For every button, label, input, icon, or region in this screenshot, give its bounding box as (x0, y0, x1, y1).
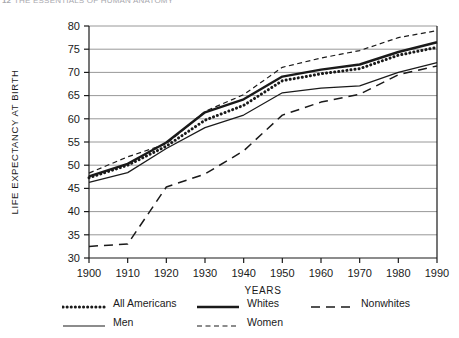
page-running-header: 12 THE ESSENTIALS OF HUMAN ANATOMY (0, 0, 459, 9)
legend-label: Whites (247, 297, 279, 309)
y-tick-label: 50 (68, 159, 80, 171)
y-tick-label: 55 (68, 136, 80, 148)
series-line (89, 42, 437, 176)
legend-item-all-americans[interactable]: All Americans (62, 297, 177, 309)
y-axis-title-group: LIFE EXPECTANCY AT BIRTH (9, 70, 20, 215)
x-tick-label: 1900 (77, 267, 101, 279)
x-tick-label: 1980 (386, 267, 410, 279)
series-line (89, 31, 437, 173)
page-folio: 12 (2, 0, 11, 5)
x-tick-label: 1960 (309, 267, 333, 279)
y-tick-label: 60 (68, 113, 80, 125)
legend-item-nonwhites[interactable]: Nonwhites (310, 297, 410, 309)
series-line (89, 47, 437, 177)
x-tick-label: 1990 (425, 267, 449, 279)
legend-label: Women (247, 316, 283, 328)
legend-label: Men (113, 316, 133, 328)
y-tick-group: 3035404550556065707580 (68, 20, 89, 264)
legend-item-women[interactable]: Women (196, 316, 283, 328)
x-tick-label: 1940 (231, 267, 255, 279)
legend-label: All Americans (113, 297, 177, 309)
legend-swatch-icon (62, 317, 106, 327)
data-series-group (89, 31, 437, 247)
legend-row: MenWomen (0, 313, 459, 330)
x-tick-label: 1950 (270, 267, 294, 279)
legend-swatch-icon (62, 298, 106, 308)
x-tick-group: 1900191019201930194019501960197019801990 (77, 258, 449, 279)
y-tick-label: 30 (68, 252, 80, 264)
legend-row: All AmericansWhitesNonwhites (0, 294, 459, 311)
legend-label: Nonwhites (361, 297, 410, 309)
life-expectancy-figure: 12 THE ESSENTIALS OF HUMAN ANATOMY 30354… (0, 0, 459, 338)
x-tick-label: 1910 (115, 267, 139, 279)
legend-swatch-icon (196, 317, 240, 327)
x-tick-label: 1920 (154, 267, 178, 279)
chart-plot-area: 3035404550556065707580 19001910192019301… (0, 9, 459, 295)
legend-item-men[interactable]: Men (62, 316, 133, 328)
chart-legend: All AmericansWhitesNonwhitesMenWomen (0, 294, 459, 338)
y-tick-label: 35 (68, 229, 80, 241)
legend-item-whites[interactable]: Whites (196, 297, 279, 309)
running-title: THE ESSENTIALS OF HUMAN ANATOMY (14, 0, 173, 5)
y-tick-label: 70 (68, 66, 80, 78)
y-tick-label: 75 (68, 43, 80, 55)
line-chart-svg: 3035404550556065707580 19001910192019301… (0, 9, 459, 295)
y-tick-label: 80 (68, 20, 80, 32)
y-axis-title: LIFE EXPECTANCY AT BIRTH (9, 70, 20, 215)
legend-swatch-icon (310, 298, 354, 308)
y-tick-label: 45 (68, 182, 80, 194)
x-tick-label: 1970 (347, 267, 371, 279)
y-tick-label: 40 (68, 205, 80, 217)
x-tick-label: 1930 (193, 267, 217, 279)
legend-swatch-icon (196, 298, 240, 308)
y-tick-label: 65 (68, 89, 80, 101)
